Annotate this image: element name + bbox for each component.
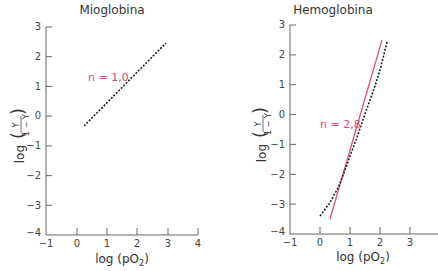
svg-text:): ) <box>7 108 28 115</box>
y-ticks <box>46 27 52 205</box>
svg-text:1 − Y: 1 − Y <box>22 114 31 136</box>
x-axis-label: log (pO2) <box>95 252 149 268</box>
svg-text:−4: −4 <box>26 227 41 238</box>
chart-mioglobina: Mioglobina 321 0−1−2 −3−4 −101 234 log (… <box>7 3 201 268</box>
svg-text:−1: −1 <box>26 140 41 151</box>
svg-text:1: 1 <box>104 238 110 249</box>
svg-text:log: log <box>255 144 269 162</box>
svg-text:2: 2 <box>134 238 140 249</box>
svg-text:3: 3 <box>407 237 413 248</box>
x-tick-labels: −101 234 <box>39 238 202 249</box>
svg-text:−3: −3 <box>270 199 285 210</box>
x-axis-label: log (pO2) <box>336 250 390 266</box>
svg-text:0: 0 <box>74 238 80 249</box>
svg-text:0: 0 <box>279 109 285 120</box>
y-axis-label: log ( Y 1 − Y ) <box>7 108 31 163</box>
svg-text:−1: −1 <box>283 237 298 248</box>
svg-text:Y: Y <box>254 121 263 127</box>
y-ticks <box>290 25 296 204</box>
svg-text:3: 3 <box>165 238 171 249</box>
chart-title: Hemoglobina <box>293 3 373 17</box>
chart-canvas: Mioglobina 321 0−1−2 −3−4 −101 234 log (… <box>0 0 438 271</box>
svg-text:−4: −4 <box>270 226 285 237</box>
svg-text:2: 2 <box>279 49 285 60</box>
svg-text:−3: −3 <box>26 200 41 211</box>
svg-text:log: log <box>13 145 27 163</box>
svg-text:−2: −2 <box>270 169 285 180</box>
chart-title: Mioglobina <box>79 3 144 17</box>
svg-text:3: 3 <box>279 19 285 30</box>
svg-text:1: 1 <box>279 79 285 90</box>
svg-text:2: 2 <box>35 51 41 62</box>
hill-coefficient-label: n = 1,0 <box>88 71 129 84</box>
svg-text:1 − Y: 1 − Y <box>264 113 273 135</box>
svg-text:0: 0 <box>317 237 323 248</box>
hill-coefficient-label: n = 2,8 <box>320 118 361 131</box>
svg-text:3: 3 <box>35 21 41 32</box>
x-tick-labels: −101 23 <box>283 237 414 248</box>
svg-text:1: 1 <box>35 81 41 92</box>
svg-text:4: 4 <box>195 238 201 249</box>
svg-text:2: 2 <box>377 237 383 248</box>
svg-text:−2: −2 <box>26 170 41 181</box>
y-axis-label: log ( Y 1 − Y ) <box>249 107 273 162</box>
chart-hemoglobina: Hemoglobina 321 0−1−2 −3−4 −101 23 log (… <box>249 3 438 266</box>
svg-text:): ) <box>249 107 270 114</box>
svg-text:−1: −1 <box>39 238 54 249</box>
svg-text:Y: Y <box>12 122 21 128</box>
x-ticks <box>77 228 198 235</box>
svg-text:0: 0 <box>35 110 41 121</box>
x-ticks <box>320 227 410 234</box>
svg-text:−1: −1 <box>270 139 285 150</box>
data-series-line <box>84 43 166 126</box>
svg-text:1: 1 <box>347 237 353 248</box>
